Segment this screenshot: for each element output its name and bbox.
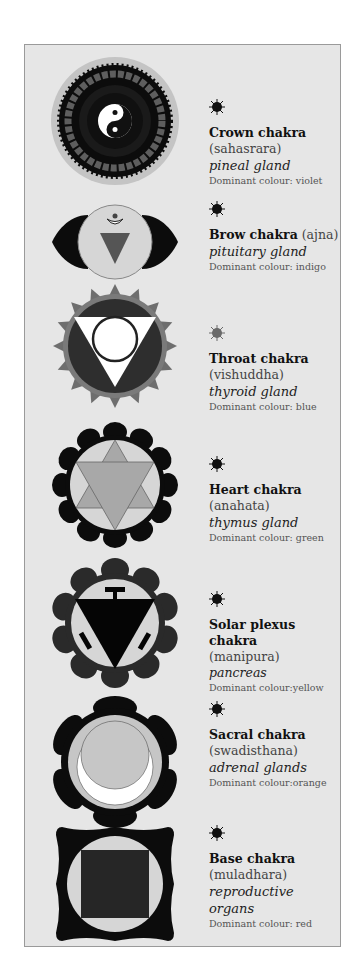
chakra-row-heart: Heart chakra (anahata) thymus gland Domi… — [25, 420, 340, 555]
chakra-dominant-colour: Dominant colour: blue — [209, 400, 317, 414]
chakra-name: Crown chakra — [209, 125, 306, 140]
chakra-dominant-colour: Dominant colour: green — [209, 531, 324, 545]
star-icon — [209, 456, 225, 472]
chakra-gland: reproductive organs — [209, 883, 340, 917]
chakra-row-base: Base chakra (muladhara) reproductive org… — [25, 823, 340, 947]
star-icon — [209, 201, 225, 217]
chakra-name: Throat chakra — [209, 351, 309, 366]
chakra-dominant-colour: Dominant colour:orange — [209, 776, 327, 790]
chakra-row-sacral: Sacral chakra (swadisthana) adrenal glan… — [25, 695, 340, 835]
brow-chakra-symbol-icon — [50, 201, 180, 283]
chakra-gland: pineal gland — [209, 157, 322, 174]
sacral-chakra-info: Sacral chakra (swadisthana) adrenal glan… — [209, 701, 327, 790]
solar-plexus-chakra-symbol-icon — [47, 557, 183, 689]
chakra-sanskrit: (muladhara) — [209, 867, 340, 883]
heart-chakra-symbol-icon — [49, 420, 181, 550]
chakra-gland: thyroid gland — [209, 383, 317, 400]
throat-chakra-info: Throat chakra (vishuddha) thyroid gland … — [209, 325, 317, 414]
chakra-row-throat: Throat chakra (vishuddha) thyroid gland … — [25, 283, 340, 423]
star-icon — [209, 591, 225, 607]
chakra-name: Heart chakra — [209, 482, 302, 497]
star-icon — [209, 701, 225, 717]
chakra-dominant-colour: Dominant colour: indigo — [209, 260, 338, 274]
chakra-dominant-colour: Dominant colour: violet — [209, 174, 322, 188]
chakra-name: Brow chakra — [209, 227, 298, 242]
chakra-row-solar-plexus: Solar plexus chakra (manipura) pancreas … — [25, 557, 340, 697]
throat-chakra-symbol-icon — [52, 283, 178, 409]
sacral-chakra-symbol-icon — [49, 695, 181, 829]
base-chakra-info: Base chakra (muladhara) reproductive org… — [209, 825, 340, 931]
chakra-gland: pancreas — [209, 665, 267, 680]
chakra-sanskrit: (anahata) — [209, 498, 324, 514]
chakra-row-crown: Crown chakra (sahasrara) pineal gland Do… — [25, 55, 340, 195]
heart-chakra-info: Heart chakra (anahata) thymus gland Domi… — [209, 456, 324, 545]
star-icon — [209, 825, 225, 841]
star-icon — [209, 325, 225, 341]
chakra-sanskrit: (vishuddha) — [209, 367, 317, 383]
brow-chakra-info: Brow chakra (ajna) pituitary gland Domin… — [209, 201, 338, 274]
crown-chakra-symbol-icon — [50, 55, 180, 187]
chakra-gland: adrenal glands — [209, 759, 327, 776]
crown-chakra-info: Crown chakra (sahasrara) pineal gland Do… — [209, 99, 322, 188]
chakra-name: Sacral chakra — [209, 727, 306, 742]
chakra-sanskrit: (manipura) — [209, 649, 280, 664]
chakra-gland: pituitary gland — [209, 243, 338, 260]
chakra-chart-panel: Crown chakra (sahasrara) pineal gland Do… — [24, 44, 341, 947]
chakra-sanskrit: (sahasrara) — [209, 141, 322, 157]
chakra-gland: thymus gland — [209, 514, 324, 531]
chakra-name: Solar plexus chakra — [209, 617, 295, 648]
chakra-dominant-colour: Dominant colour:yellow — [209, 681, 340, 695]
star-icon — [209, 99, 225, 115]
chakra-sanskrit: (ajna) — [302, 227, 339, 242]
base-chakra-symbol-icon — [52, 823, 178, 945]
chakra-name: Base chakra — [209, 851, 295, 866]
chakra-sanskrit: (swadisthana) — [209, 743, 327, 759]
chakra-dominant-colour: Dominant colour: red — [209, 917, 340, 931]
solar-plexus-chakra-info: Solar plexus chakra (manipura) pancreas … — [209, 591, 340, 695]
